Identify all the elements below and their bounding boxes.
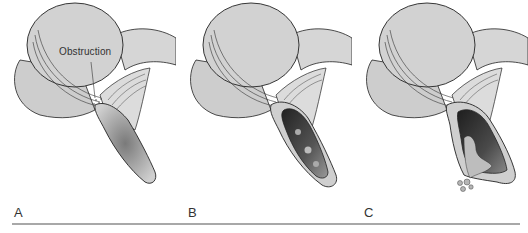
appendix-inflamed-illustration: [176, 0, 352, 205]
panel-label-a: A: [14, 205, 23, 220]
panel-label-b: B: [188, 205, 197, 220]
bottom-divider: [12, 223, 520, 225]
panel-b: B: [176, 0, 352, 205]
appendix-perforated-illustration: [352, 0, 528, 205]
obstruction-callout: Obstruction: [59, 46, 111, 57]
appendix-obstruction-illustration: [0, 0, 176, 205]
panel-c: C: [352, 0, 528, 205]
panel-a: Obstruction A: [0, 0, 176, 205]
panel-label-c: C: [364, 205, 373, 220]
